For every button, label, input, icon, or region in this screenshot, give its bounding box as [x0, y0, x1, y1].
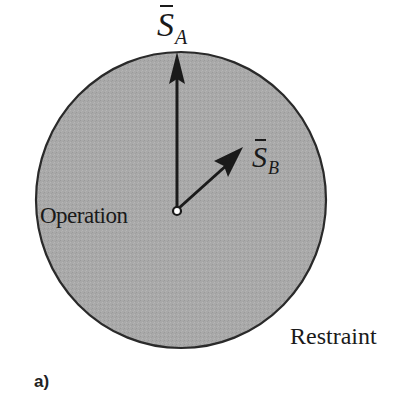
operation-label: Operation [40, 204, 127, 227]
panel-label: a) [34, 372, 49, 392]
vector-s-b-symbol: S [252, 142, 267, 172]
operation-point [173, 207, 181, 215]
vector-s-b-label: SB [252, 142, 279, 172]
vector-s-a-subscript: A [175, 26, 187, 48]
restraint-label: Restraint [290, 324, 377, 348]
vector-s-a-symbol: S [157, 8, 174, 42]
restraint-region [36, 52, 326, 348]
vector-s-b-subscript: B [268, 158, 279, 178]
vector-s-a-label: SA [157, 8, 187, 42]
